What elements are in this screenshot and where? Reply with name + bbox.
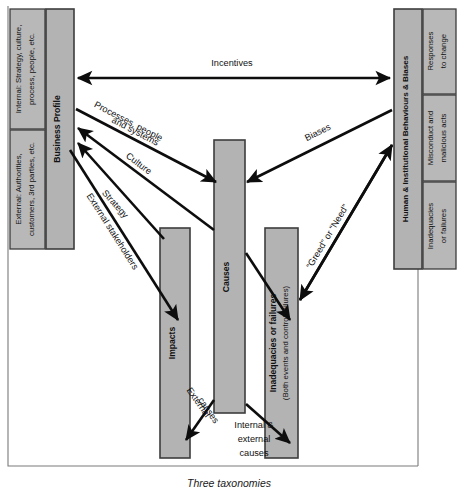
right-subbox-responses-line1: Responses — [426, 31, 435, 70]
arrow-greed-or-need: “Greed” or “Need” — [300, 145, 392, 300]
right-subbox-responses-line2: to change — [439, 34, 448, 68]
right-panel-human-behaviours[interactable]: Human & Institutional Behaviours & Biase… — [394, 9, 456, 269]
business-profile-label: Business Profile — [52, 95, 62, 163]
arrow-internal-external-causes-line1: Internal & — [234, 420, 273, 430]
arrow-incentives: Incentives — [78, 58, 390, 78]
arrow-biases: Biases — [247, 110, 392, 182]
left-subbox-internal-line1: Internal: Strategy, culture, — [14, 25, 23, 114]
arrow-internal-external-causes-line3: causes — [239, 448, 269, 458]
right-subbox-misconduct-line1: Misconduct and — [426, 111, 435, 166]
arrow-greed-or-need-label: “Greed” or “Need” — [304, 203, 350, 271]
left-subbox-internal-line2: process, people, etc. — [27, 33, 36, 105]
inadequacies-failures-line1: Inadequacies or failures — [268, 294, 278, 393]
arrow-internal-external-causes-line2: external — [238, 434, 271, 444]
arrow-strategy: Strategy — [78, 143, 164, 239]
arrow-biases-label: Biases — [303, 122, 333, 143]
center-bar-impacts[interactable]: Impacts — [160, 228, 190, 458]
inadequacies-failures-line2: (Both events and control failures) — [281, 285, 290, 400]
figure-caption: Three taxonomies — [187, 477, 272, 489]
human-behaviours-label: Human & Institutional Behaviours & Biase… — [401, 55, 410, 222]
right-subbox-inadequacies-line2: or failures — [439, 209, 448, 243]
center-bar-causes[interactable]: Causes — [214, 140, 245, 413]
diagram-canvas: Business Profile Internal: Strategy, cul… — [0, 0, 458, 497]
arrow-incentives-label: Incentives — [211, 58, 253, 68]
impacts-label: Impacts — [167, 327, 177, 360]
left-subbox-external-line2: customers, 3rd parties, etc. — [27, 142, 36, 236]
causes-label: Causes — [221, 261, 231, 292]
right-subbox-inadequacies-line1: Inadequacies — [426, 203, 435, 249]
right-subbox-misconduct-line2: malicious acts — [439, 113, 448, 162]
left-subbox-external-line1: External: Authorities, — [14, 153, 23, 225]
left-panel-business-profile[interactable]: Business Profile Internal: Strategy, cul… — [10, 9, 74, 249]
